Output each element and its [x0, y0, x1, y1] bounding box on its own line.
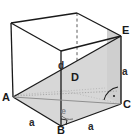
- measure-label-edge-ce: a: [122, 66, 128, 77]
- measure-label-edge-bc: a: [88, 121, 94, 132]
- measure-label-diagonal-d: d: [58, 60, 64, 71]
- edge-left-vertical: [11, 23, 13, 97]
- edge-top-left-to-top-mid: [11, 23, 61, 51]
- vertex-label-A: A: [2, 91, 10, 103]
- vertex-label-C: C: [123, 98, 131, 110]
- vertex-label-B: B: [57, 124, 65, 135]
- edge-back-to-top-right: [77, 13, 121, 36]
- edge-top-left-to-back: [11, 13, 77, 23]
- measure-label-angle-e: e: [61, 106, 66, 116]
- vertex-label-D: D: [71, 71, 79, 83]
- right-angle-at-c-icon: [113, 95, 115, 97]
- cube-diagram: A B C D E a a a d e: [0, 0, 132, 135]
- figure-canvas: A B C D E a a a d e: [0, 0, 132, 135]
- vertex-label-E: E: [122, 24, 129, 36]
- measure-label-edge-ab: a: [29, 117, 35, 128]
